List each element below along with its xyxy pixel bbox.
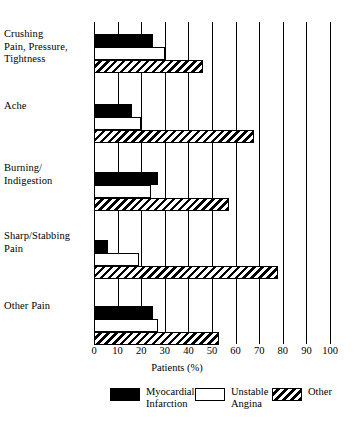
bar-chart: CrushingPain, Pressure,Tightness Ache Bu…	[0, 0, 354, 425]
x-axis-title: Patients (%)	[0, 362, 354, 373]
x-tick-70	[259, 337, 260, 344]
x-tick-label-10: 10	[106, 345, 130, 357]
x-tick-80	[283, 337, 284, 344]
legend-label-unstable-angina: UnstableAngina	[231, 386, 268, 410]
x-tick-label-70: 70	[247, 345, 271, 357]
x-tick-label-30: 30	[153, 345, 177, 357]
gridline-50	[212, 22, 213, 337]
x-tick-label-0: 0	[82, 345, 106, 357]
legend-swatch-unstable-angina	[195, 388, 225, 401]
category-label-crushing-pain: CrushingPain, Pressure,Tightness	[4, 28, 88, 66]
x-tick-label-100: 100	[318, 345, 342, 357]
legend-label-other: Other	[308, 386, 332, 398]
x-tick-60	[236, 337, 237, 344]
x-tick-100	[330, 337, 331, 344]
bar-mi-group-0	[94, 34, 153, 47]
bar-mi-group-2	[94, 172, 158, 185]
x-tick-label-80: 80	[271, 345, 295, 357]
gridline-90	[306, 22, 307, 337]
category-label-sharp-stabbing-pain: Sharp/StabbingPain	[4, 230, 88, 255]
chart-legend: MyocardialInfarction UnstableAngina Othe…	[0, 386, 354, 422]
x-tick-label-40: 40	[176, 345, 200, 357]
bar-other-group-1	[94, 130, 254, 143]
bar-other-group-0	[94, 60, 203, 73]
legend-item-myocardial-infarction: MyocardialInfarction	[110, 386, 194, 410]
plot-wrapper: CrushingPain, Pressure,Tightness Ache Bu…	[0, 0, 354, 360]
gridline-80	[283, 22, 284, 337]
bar-ua-group-4	[94, 319, 158, 332]
bar-ua-group-1	[94, 117, 141, 130]
category-label-other-pain: Other Pain	[4, 300, 88, 313]
bar-ua-group-2	[94, 185, 151, 198]
legend-swatch-other	[272, 388, 302, 401]
x-tick-label-20: 20	[129, 345, 153, 357]
category-label-ache: Ache	[4, 100, 88, 113]
bar-other-group-2	[94, 198, 229, 211]
plot-area	[94, 22, 330, 337]
bar-other-group-4	[94, 332, 219, 345]
legend-swatch-myocardial-infarction	[110, 388, 140, 401]
gridline-70	[259, 22, 260, 337]
x-tick-label-60: 60	[224, 345, 248, 357]
bar-ua-group-3	[94, 253, 139, 266]
legend-label-myocardial-infarction: MyocardialInfarction	[146, 386, 194, 410]
bar-mi-group-1	[94, 104, 132, 117]
legend-item-other: Other	[272, 386, 332, 401]
bar-ua-group-0	[94, 47, 165, 60]
bar-other-group-3	[94, 266, 278, 279]
gridline-60	[236, 22, 237, 337]
x-tick-90	[306, 337, 307, 344]
category-axis-labels: CrushingPain, Pressure,Tightness Ache Bu…	[4, 22, 92, 337]
x-tick-label-50: 50	[200, 345, 224, 357]
category-label-burning-indigestion: Burning/Indigestion	[4, 162, 88, 187]
legend-item-unstable-angina: UnstableAngina	[195, 386, 268, 410]
gridline-100	[330, 22, 331, 337]
bar-mi-group-3	[94, 240, 108, 253]
x-tick-label-90: 90	[294, 345, 318, 357]
bar-mi-group-4	[94, 306, 153, 319]
